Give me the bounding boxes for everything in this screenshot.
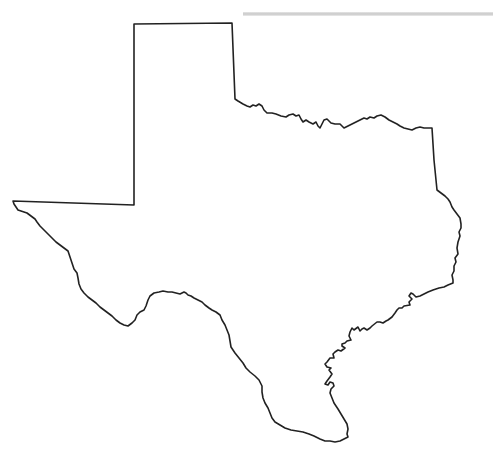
texas-state-outline	[13, 23, 461, 442]
texas-outline-map	[0, 0, 493, 451]
